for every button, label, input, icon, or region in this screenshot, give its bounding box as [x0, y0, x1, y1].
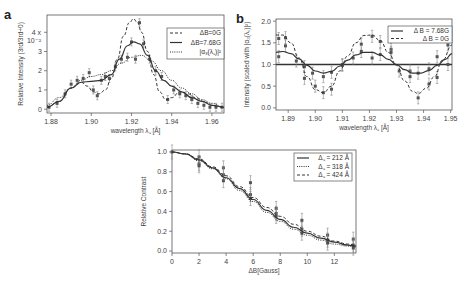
panel-b-chart: 0.00.51.01.52.01.891.901.911.921.931.941… — [236, 11, 458, 132]
x-tick-label: 1.92 — [125, 118, 139, 125]
y-tick-label: 1.5 — [261, 39, 271, 46]
x-tick-label: 1.90 — [308, 115, 322, 122]
data-point — [88, 71, 91, 74]
data-point — [436, 76, 439, 79]
y-tick-label: 1.0 — [261, 61, 271, 68]
x-tick-label: 1.95 — [444, 115, 458, 122]
y-tick-label: 0.8 — [157, 168, 167, 175]
x-tick-label: 12 — [330, 258, 338, 265]
y-tick-label: 0 — [38, 106, 42, 113]
legend: ΔB=0GΔB=7.68G|α₃(λ꜀)|² — [167, 28, 224, 59]
x-tick-label: 1.96 — [205, 118, 219, 125]
data-point — [360, 43, 363, 46]
y-axis-label: Relative Intensity (3rd/3rd+0) — [17, 22, 25, 106]
data-point — [198, 164, 201, 167]
data-point — [178, 92, 181, 95]
data-point — [76, 79, 79, 82]
y-tick-label: 0.4 — [157, 208, 167, 215]
legend-label: ΔB=0G — [200, 29, 221, 36]
data-point — [208, 106, 211, 109]
x-tick-label: 1.94 — [417, 115, 431, 122]
data-point — [330, 88, 333, 91]
y-tick-label: 3 — [38, 48, 42, 55]
y-tick-label: 1.0 — [157, 148, 167, 155]
data-point — [277, 55, 280, 58]
data-point — [284, 44, 287, 47]
data-point — [82, 77, 85, 80]
panel-c-chart: 0.00.20.40.60.81.0024681012Δ꜀ = 212 ÅΔ꜀ … — [140, 145, 356, 275]
x-tick-label: 2 — [197, 258, 201, 265]
legend-label: ΔB=7.68G — [191, 39, 221, 46]
legend: Δ꜀ = 212 ÅΔ꜀ = 318 ÅΔ꜀ = 424 Å — [294, 153, 352, 181]
data-point — [417, 96, 420, 99]
x-tick-label: 10 — [303, 258, 311, 265]
y-tick-label: 0.0 — [261, 104, 271, 111]
x-tick-label: 1.88 — [44, 118, 58, 125]
data-point — [96, 94, 99, 97]
x-tick-label: 6 — [251, 258, 255, 265]
legend-label: Δ꜀ = 424 Å — [318, 170, 349, 178]
data-point — [303, 77, 306, 80]
x-axis-label: wavelength λ꜀ [Å] — [338, 123, 389, 132]
data-point — [322, 75, 325, 78]
data-point — [409, 75, 412, 78]
data-point — [172, 88, 175, 91]
data-point — [70, 83, 73, 86]
data-point — [249, 181, 252, 184]
x-axis-label: ΔB[Gauss] — [248, 267, 279, 275]
legend-label: Δ B = 7.68G — [414, 27, 449, 34]
y-tick-label: 2 — [38, 67, 42, 74]
y-tick-label: 0.2 — [157, 228, 167, 235]
data-point — [134, 58, 137, 61]
y-multiplier-top: 4 x — [32, 29, 42, 36]
legend-label: Δ B = 0G — [423, 35, 449, 42]
panel-label-b: b — [236, 11, 244, 26]
data-point — [311, 72, 314, 75]
legend-label: Δ꜀ = 318 Å — [318, 162, 349, 170]
y-axis-label: Intensity (scaled with |α₃(λ꜀)|²) — [243, 22, 251, 108]
data-point — [202, 104, 205, 107]
x-tick-label: 1.93 — [390, 115, 404, 122]
x-tick-label: 1.89 — [281, 115, 295, 122]
data-point — [300, 219, 303, 222]
x-tick-label: 1.92 — [363, 115, 377, 122]
x-axis-label: wavelength λ꜀ [Å] — [110, 126, 161, 135]
panel-a-chart: 01231.881.901.921.941.96ΔB=0GΔB=7.68G|α₃… — [4, 7, 224, 135]
data-point — [222, 179, 225, 182]
y-tick-label: 1 — [38, 86, 42, 93]
x-tick-label: 0 — [170, 258, 174, 265]
data-point — [196, 102, 199, 105]
y-tick-label: 2.0 — [261, 18, 271, 25]
x-tick-label: 4 — [224, 258, 228, 265]
figure: 01231.881.901.921.941.96ΔB=0GΔB=7.68G|α₃… — [0, 0, 469, 293]
data-point — [277, 37, 280, 40]
y-tick-label: 0.0 — [157, 247, 167, 254]
x-tick-label: 1.90 — [84, 118, 98, 125]
data-point — [446, 44, 449, 47]
x-tick-label: 8 — [278, 258, 282, 265]
y-tick-label: 0.5 — [261, 83, 271, 90]
panel-label-a: a — [4, 7, 12, 22]
legend-label: Δ꜀ = 212 Å — [318, 153, 349, 161]
legend: Δ B = 7.68GΔ B = 0G — [388, 26, 452, 43]
data-point — [190, 98, 193, 101]
data-point — [446, 63, 449, 66]
data-point — [314, 85, 317, 88]
data-point — [436, 55, 439, 58]
data-point — [92, 88, 95, 91]
y-tick-label: 0.6 — [157, 188, 167, 195]
y-axis-label: Relative Contrast — [140, 176, 147, 226]
data-point — [295, 60, 298, 63]
x-tick-label: 1.91 — [336, 115, 350, 122]
data-point — [126, 56, 129, 59]
x-tick-label: 1.94 — [165, 118, 179, 125]
y-multiplier-bottom: 10⁻² — [27, 37, 42, 44]
legend-label: |α₃(λ꜀)|² — [199, 48, 221, 56]
data-point — [371, 57, 374, 60]
